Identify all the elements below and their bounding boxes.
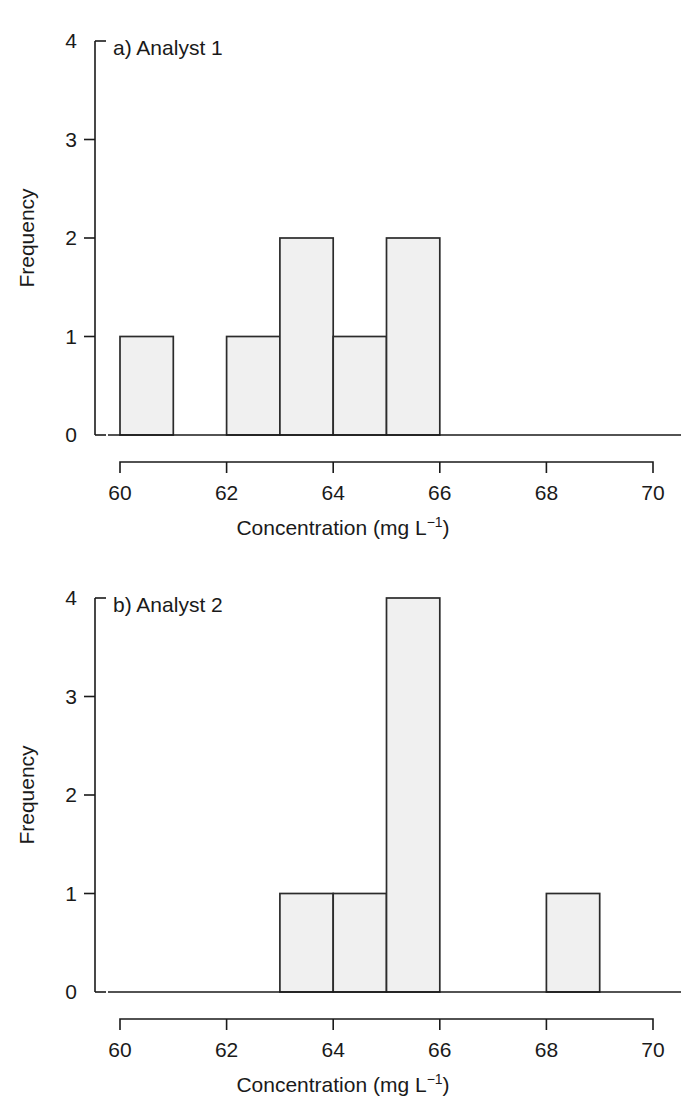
y-tick-label-1: 1: [65, 325, 77, 348]
bars-group-analyst-1: [120, 238, 440, 435]
panel-tag-analyst-1: a) Analyst 1: [113, 36, 223, 59]
x-tick-label-60: 60: [108, 1038, 131, 1061]
x-axis-title-analyst-1: Concentration (mg L−1): [236, 514, 449, 539]
histogram-bar: [333, 894, 386, 993]
y-tick-label-3: 3: [65, 685, 77, 708]
panel-analyst-2: 01234 606264666870 b) Analyst 2 Concentr…: [0, 557, 692, 1115]
histogram-bar: [280, 238, 333, 435]
bars-group-analyst-2: [280, 598, 600, 992]
x-axis-title-sup-a: −1: [427, 514, 443, 530]
y-axis-analyst-1: [84, 41, 106, 435]
x-tick-label-68: 68: [535, 1038, 558, 1061]
y-tick-label-0: 0: [65, 423, 77, 446]
histogram-bar: [227, 337, 280, 436]
histogram-bar: [333, 337, 386, 436]
y-axis-analyst-2: [84, 598, 106, 992]
x-axis-title-tail-a: ): [443, 516, 450, 539]
y-tick-labels-analyst-1: 01234: [65, 29, 77, 446]
x-axis-title-analyst-2: Concentration (mg L−1): [236, 1071, 449, 1096]
histogram-bar: [387, 598, 440, 992]
x-tick-label-70: 70: [641, 481, 664, 504]
histogram-bar: [546, 894, 599, 993]
x-axis-spine: [120, 462, 653, 473]
x-tick-label-66: 66: [428, 481, 451, 504]
panel-analyst-1: 01234 606264666870 a) Analyst 1 Concentr…: [0, 0, 692, 558]
x-axis-spine: [120, 1019, 653, 1030]
y-tick-label-4: 4: [65, 586, 77, 609]
y-axis-title-analyst-1: Frequency: [15, 188, 38, 288]
x-axis-analyst-1: [120, 462, 653, 473]
x-tick-label-70: 70: [641, 1038, 664, 1061]
y-tick-label-0: 0: [65, 980, 77, 1003]
panel-tag-analyst-2: b) Analyst 2: [113, 593, 223, 616]
y-tick-labels-analyst-2: 01234: [65, 586, 77, 1003]
histogram-bar: [387, 238, 440, 435]
x-tick-labels-analyst-2: 606264666870: [108, 1038, 664, 1061]
histogram-figure: 01234 606264666870 a) Analyst 1 Concentr…: [0, 0, 692, 1117]
x-tick-label-62: 62: [215, 481, 238, 504]
x-tick-label-68: 68: [535, 481, 558, 504]
x-axis-title-tail-b: ): [443, 1073, 450, 1096]
x-tick-label-66: 66: [428, 1038, 451, 1061]
y-tick-label-4: 4: [65, 29, 77, 52]
plot-area-analyst-1: 01234 606264666870 a) Analyst 1 Concentr…: [0, 0, 692, 558]
x-axis-title-sup-b: −1: [427, 1071, 443, 1087]
x-axis-title-main-b: Concentration (mg L: [236, 1073, 426, 1096]
histogram-bar: [120, 337, 173, 436]
x-axis-analyst-2: [120, 1019, 653, 1030]
y-tick-label-2: 2: [65, 226, 77, 249]
y-tick-label-1: 1: [65, 882, 77, 905]
x-tick-label-62: 62: [215, 1038, 238, 1061]
y-tick-label-2: 2: [65, 783, 77, 806]
y-tick-label-3: 3: [65, 128, 77, 151]
x-tick-label-60: 60: [108, 481, 131, 504]
histogram-bar: [280, 894, 333, 993]
y-axis-title-analyst-2: Frequency: [15, 745, 38, 845]
plot-area-analyst-2: 01234 606264666870 b) Analyst 2 Concentr…: [0, 557, 692, 1115]
x-tick-labels-analyst-1: 606264666870: [108, 481, 664, 504]
x-axis-title-main-a: Concentration (mg L: [236, 516, 426, 539]
x-tick-label-64: 64: [322, 1038, 346, 1061]
x-tick-label-64: 64: [322, 481, 346, 504]
